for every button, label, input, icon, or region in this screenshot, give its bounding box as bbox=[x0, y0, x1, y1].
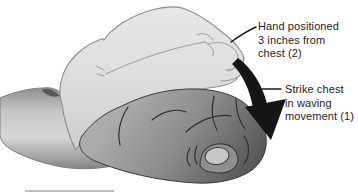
annotation-hand-position: Hand positioned 3 inches from chest (2) bbox=[258, 20, 339, 61]
annotation-line: movement (1) bbox=[285, 110, 354, 124]
upper-label-leader-line bbox=[231, 27, 256, 42]
annotation-line: 3 inches from bbox=[258, 34, 339, 48]
bottom-rule bbox=[25, 190, 114, 192]
annotation-line: Hand positioned bbox=[258, 20, 339, 34]
annotation-line: Strike chest bbox=[285, 83, 354, 97]
annotation-strike-movement: Strike chest in waving movement (1) bbox=[285, 83, 354, 124]
annotation-line: in waving bbox=[285, 97, 354, 111]
chest-percussion-figure: Hand positioned 3 inches from chest (2) … bbox=[0, 0, 358, 196]
annotation-line: chest (2) bbox=[258, 47, 339, 61]
